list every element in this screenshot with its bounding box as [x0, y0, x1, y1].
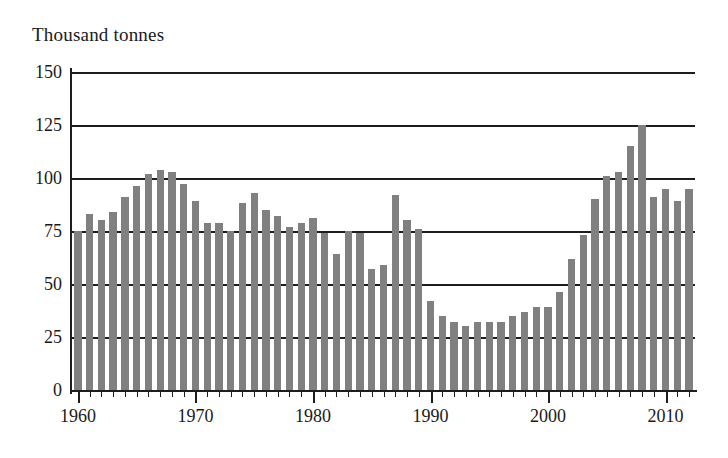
bar-1973 — [227, 231, 234, 390]
x-tick-1990 — [431, 391, 433, 403]
bar-2008 — [638, 125, 645, 390]
x-tick-1977 — [278, 391, 279, 397]
x-tick-label-1990: 1990 — [413, 406, 449, 426]
x-tick-2009 — [654, 391, 655, 397]
x-tick-1973 — [231, 391, 232, 397]
y-tick-label-125: 125 — [16, 116, 62, 134]
x-tick-label-1980: 1980 — [295, 406, 331, 426]
bar-1965 — [133, 186, 140, 390]
x-tick-1984 — [360, 391, 361, 397]
x-tick-1980 — [313, 391, 315, 403]
x-tick-2001 — [560, 391, 561, 397]
plot-area — [72, 72, 695, 390]
bar-1998 — [521, 312, 528, 390]
bar-1971 — [204, 223, 211, 390]
x-tick-1964 — [125, 391, 126, 397]
bar-1978 — [286, 227, 293, 390]
bar-1972 — [215, 223, 222, 390]
bar-1966 — [145, 174, 152, 390]
x-tick-1965 — [137, 391, 138, 397]
x-tick-1974 — [242, 391, 243, 397]
bar-1964 — [121, 197, 128, 390]
bar-1969 — [180, 184, 187, 390]
bar-2006 — [615, 172, 622, 390]
x-tick-1970 — [195, 391, 197, 403]
x-tick-1982 — [336, 391, 337, 397]
bar-1961 — [86, 214, 93, 390]
bar-2003 — [580, 235, 587, 390]
bar-1962 — [98, 220, 105, 390]
x-tick-1963 — [113, 391, 114, 397]
bar-1999 — [533, 307, 540, 390]
x-tick-1988 — [407, 391, 408, 397]
bar-2007 — [627, 146, 634, 390]
x-tick-1985 — [372, 391, 373, 397]
x-tick-1969 — [184, 391, 185, 397]
y-tick-label-150: 150 — [16, 63, 62, 81]
bar-1970 — [192, 201, 199, 390]
x-tick-1998 — [525, 391, 526, 397]
x-tick-2006 — [619, 391, 620, 397]
x-tick-1960 — [78, 391, 80, 403]
x-tick-label-2010: 2010 — [648, 406, 684, 426]
x-tick-1966 — [148, 391, 149, 397]
x-tick-1994 — [478, 391, 479, 397]
bar-2001 — [556, 292, 563, 390]
x-tick-1986 — [384, 391, 385, 397]
x-tick-2003 — [583, 391, 584, 397]
x-tick-1993 — [466, 391, 467, 397]
x-tick-1995 — [489, 391, 490, 397]
x-tick-1961 — [90, 391, 91, 397]
x-tick-1983 — [348, 391, 349, 397]
y-tick-label-50: 50 — [16, 275, 62, 293]
bar-1988 — [403, 220, 410, 390]
bar-1982 — [333, 254, 340, 390]
x-tick-1999 — [536, 391, 537, 397]
bar-1980 — [309, 218, 316, 390]
x-tick-2008 — [642, 391, 643, 397]
bar-1974 — [239, 203, 246, 390]
bar-2012 — [685, 189, 692, 390]
x-tick-label-2000: 2000 — [530, 406, 566, 426]
x-tick-1996 — [501, 391, 502, 397]
x-tick-1975 — [254, 391, 255, 397]
x-tick-2010 — [666, 391, 668, 403]
x-tick-1989 — [419, 391, 420, 397]
bar-1984 — [356, 233, 363, 390]
x-tick-1997 — [513, 391, 514, 397]
bar-2011 — [674, 201, 681, 390]
bar-1994 — [474, 322, 481, 390]
bar-1996 — [497, 322, 504, 390]
y-tick-label-100: 100 — [16, 169, 62, 187]
bar-1995 — [486, 322, 493, 390]
bar-1983 — [345, 231, 352, 390]
x-tick-2000 — [548, 391, 550, 403]
x-tick-2002 — [572, 391, 573, 397]
y-tick-label-0: 0 — [16, 381, 62, 399]
x-tick-2007 — [630, 391, 631, 397]
x-tick-1976 — [266, 391, 267, 397]
bar-2010 — [662, 189, 669, 390]
x-tick-2005 — [607, 391, 608, 397]
y-tick-label-75: 75 — [16, 222, 62, 240]
x-tick-label-1970: 1970 — [177, 406, 213, 426]
bar-1985 — [368, 269, 375, 390]
bar-1990 — [427, 301, 434, 390]
bar-2000 — [544, 307, 551, 390]
bar-2002 — [568, 259, 575, 390]
y-axis-labels: 0255075100125150 — [10, 0, 62, 458]
bar-series — [72, 72, 695, 390]
bar-1997 — [509, 316, 516, 390]
bar-1967 — [157, 170, 164, 390]
bar-2005 — [603, 176, 610, 390]
x-tick-1972 — [219, 391, 220, 397]
y-tick-label-25: 25 — [16, 328, 62, 346]
x-tick-2011 — [677, 391, 678, 397]
x-tick-1987 — [395, 391, 396, 397]
bar-1981 — [321, 233, 328, 390]
x-tick-1981 — [325, 391, 326, 397]
bar-1976 — [262, 210, 269, 390]
bar-1963 — [109, 212, 116, 390]
bar-2004 — [591, 199, 598, 390]
bar-1992 — [450, 322, 457, 390]
